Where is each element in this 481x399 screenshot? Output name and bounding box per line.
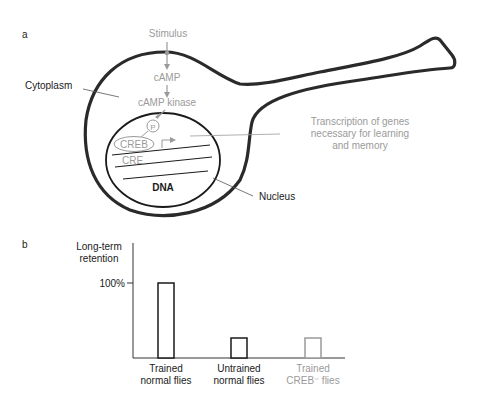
y-axis-label-line2: retention bbox=[80, 253, 119, 264]
stimulus-label: Stimulus bbox=[149, 28, 187, 39]
arrowhead-icon bbox=[170, 137, 176, 143]
y-tick-label-100: 100% bbox=[99, 278, 125, 289]
transcription-line1: Transcription of genes bbox=[311, 116, 410, 127]
transcription-line2: necessary for learning bbox=[311, 128, 409, 139]
transcription-pointer bbox=[190, 134, 280, 136]
bar-trained-normal bbox=[158, 283, 174, 358]
nucleus-label: Nucleus bbox=[259, 191, 295, 202]
category-label-2-line1: Untrained bbox=[217, 363, 260, 374]
category-label-2-line2: normal flies bbox=[213, 375, 264, 386]
arrowhead-icon bbox=[164, 64, 170, 70]
bar-untrained-normal bbox=[231, 338, 247, 358]
bar-trained-creb-minus bbox=[305, 338, 321, 358]
category-label-3-line2: CREB⁻ flies bbox=[286, 375, 339, 386]
creb-label: CREB bbox=[120, 139, 148, 150]
cre-label: CRE bbox=[122, 155, 143, 166]
cytoplasm-pointer bbox=[83, 89, 119, 97]
nucleus-pointer bbox=[213, 178, 253, 196]
camp-label: cAMP bbox=[154, 72, 181, 83]
camp-kinase-label: cAMP kinase bbox=[138, 97, 197, 108]
dna-label: DNA bbox=[152, 182, 174, 193]
panel-b-label: b bbox=[22, 239, 28, 250]
cytoplasm-label: Cytoplasm bbox=[25, 80, 72, 91]
category-label-1-line2: normal flies bbox=[140, 375, 191, 386]
dna-strand bbox=[123, 171, 208, 179]
retention-bar-chart: Long-term retention 100% Trained normal … bbox=[76, 241, 345, 386]
phosphate-label: P bbox=[150, 123, 155, 132]
category-label-3-line1: Trained bbox=[296, 363, 330, 374]
panel-a-label: a bbox=[22, 29, 28, 40]
transcription-line3: and memory bbox=[332, 140, 388, 151]
figure-canvas: a Stimulus cAMP cAMP kinase P CREB CRE D… bbox=[0, 0, 481, 399]
y-axis-label-line1: Long-term bbox=[76, 241, 122, 252]
category-label-1-line1: Trained bbox=[149, 363, 183, 374]
